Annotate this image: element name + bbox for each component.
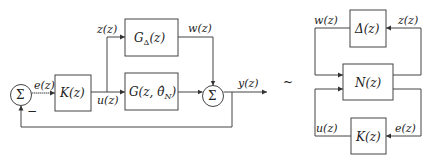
signal-z-label: z(z) [96, 23, 117, 36]
delta-block-label: Δ(z) [354, 22, 380, 36]
plant-label: G(z, θ̂N) [129, 85, 176, 101]
right-signal-u-label: u(z) [316, 122, 337, 135]
signal-y-label: y(z) [237, 77, 259, 90]
uncertainty-block-label: GΔ(z) [134, 31, 165, 47]
controller-label: K(z) [59, 86, 85, 100]
block-diagram: Σ − e(z) K(z) u(z) z(z) GΔ(z) G(z, θ̂N) … [0, 0, 431, 164]
sum-symbol-right: Σ [208, 89, 216, 103]
n-block-label: N(z) [354, 76, 382, 90]
signal-e-label: e(z) [34, 79, 55, 92]
right-signal-z-label: z(z) [397, 14, 418, 27]
right-signal-w-label: w(z) [314, 14, 338, 27]
signal-u-label: u(z) [97, 94, 118, 107]
right-signal-e-label: e(z) [395, 122, 416, 135]
signal-w-label: w(z) [188, 22, 212, 35]
sum-symbol-left: Σ [16, 88, 24, 102]
k-block-label: K(z) [355, 130, 381, 144]
equivalence-symbol: ~ [283, 75, 293, 89]
minus-sign: − [27, 104, 37, 118]
